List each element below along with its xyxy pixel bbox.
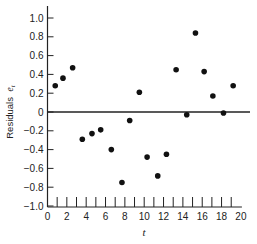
residual-point xyxy=(193,30,199,36)
y-tick-label: −0.6 xyxy=(24,163,44,174)
x-tick-label: 18 xyxy=(216,211,228,222)
x-axis-ticks: 02468101214161820 xyxy=(45,197,247,222)
x-tick-label: 10 xyxy=(139,211,151,222)
y-tick-label: 0.8 xyxy=(30,31,44,42)
residuals-scatter-plot: 1.00.80.60.40.20−0.2−0.4−0.6−0.8−1.0 024… xyxy=(0,0,257,244)
residual-point xyxy=(52,83,58,89)
residual-point xyxy=(60,75,66,81)
y-axis-title: Residuals et xyxy=(4,84,17,139)
x-axis-title: t xyxy=(142,226,146,238)
data-points xyxy=(52,30,236,185)
residual-point xyxy=(221,110,227,116)
residual-point xyxy=(230,83,236,89)
x-tick-label: 8 xyxy=(122,211,128,222)
x-tick-label: 4 xyxy=(83,211,89,222)
x-tick-label: 20 xyxy=(235,211,247,222)
residual-point xyxy=(109,147,115,153)
x-tick-label: 14 xyxy=(177,211,189,222)
x-tick-label: 6 xyxy=(103,211,109,222)
residual-point xyxy=(127,118,133,124)
residual-point xyxy=(155,173,161,179)
residual-point xyxy=(173,67,179,73)
residual-point xyxy=(80,136,86,142)
residual-point xyxy=(144,154,150,160)
y-tick-label: −0.4 xyxy=(24,144,44,155)
residual-point xyxy=(98,127,104,133)
residual-point xyxy=(184,112,190,118)
x-tick-label: 16 xyxy=(197,211,209,222)
y-tick-label: 0 xyxy=(38,107,44,118)
y-tick-label: −1.0 xyxy=(24,201,44,212)
residual-point xyxy=(201,69,207,75)
y-tick-label: −0.2 xyxy=(24,125,44,136)
x-tick-label: 12 xyxy=(158,211,170,222)
residual-point xyxy=(210,93,216,99)
y-tick-label: −0.8 xyxy=(24,182,44,193)
residual-point xyxy=(70,65,76,71)
residual-point xyxy=(119,180,125,186)
residual-point xyxy=(164,152,170,158)
residual-point xyxy=(137,89,143,95)
y-tick-label: 0.4 xyxy=(30,69,44,80)
x-tick-label: 2 xyxy=(64,211,70,222)
y-tick-label: 0.6 xyxy=(30,50,44,61)
y-tick-label: 1.0 xyxy=(30,13,44,24)
residual-point xyxy=(89,131,95,137)
x-tick-label: 0 xyxy=(45,211,51,222)
y-tick-label: 0.2 xyxy=(30,88,44,99)
